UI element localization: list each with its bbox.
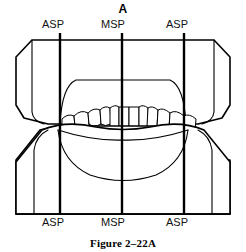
dental-cast-drawing — [0, 0, 246, 252]
figure-container: A ASP MSP ASP ASP MSP ASP — [0, 0, 246, 252]
tooth-upper-L3 — [110, 106, 119, 128]
tooth-upper-L4 — [100, 107, 111, 126]
figure-caption: Figure 2–22A — [0, 237, 246, 249]
tooth-upper-L5 — [88, 109, 101, 126]
tooth-upper-R4 — [147, 107, 158, 128]
